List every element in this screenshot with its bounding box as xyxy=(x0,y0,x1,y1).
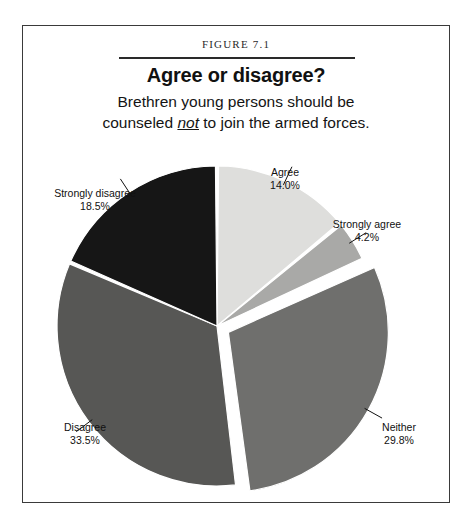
figure-frame: Figure 7.1 Agree or disagree? Brethren y… xyxy=(22,25,450,503)
pie-leader-line xyxy=(365,408,382,418)
pie-chart-svg: Agree14.0%Strongly agree4.2%Neither29.8%… xyxy=(23,134,449,502)
pie-slice-label-name: Strongly disagree xyxy=(54,187,136,199)
pie-slice-label-name: Strongly agree xyxy=(333,218,401,230)
pie-slice-label-value: 18.5% xyxy=(80,200,110,212)
pie-slice-label-name: Agree xyxy=(271,166,299,178)
pie-chart-area: Agree14.0%Strongly agree4.2%Neither29.8%… xyxy=(23,134,449,502)
subtitle-text-before: counseled xyxy=(102,114,177,131)
chart-title: Agree or disagree? xyxy=(23,64,449,87)
chart-subtitle-line-1: Brethren young persons should be xyxy=(23,91,449,112)
pie-slice-label: Disagree33.5% xyxy=(64,421,106,446)
pie-slice-label: Agree14.0% xyxy=(270,166,300,191)
chart-subtitle: Brethren young persons should be counsel… xyxy=(23,91,449,133)
pie-slice-label-name: Neither xyxy=(382,421,416,433)
chart-subtitle-line-2: counseled not to join the armed forces. xyxy=(23,112,449,133)
pie-slice-label: Neither29.8% xyxy=(382,421,416,446)
title-divider-rule xyxy=(119,57,355,59)
pie-slice-label-value: 14.0% xyxy=(270,179,300,191)
pie-slice-group xyxy=(57,166,388,491)
subtitle-text-after: to join the armed forces. xyxy=(199,114,370,131)
subtitle-emphasis-not: not xyxy=(177,114,199,131)
pie-slice-label-name: Disagree xyxy=(64,421,106,433)
pie-slice-label-value: 29.8% xyxy=(384,434,414,446)
figure-number-label: Figure 7.1 xyxy=(23,38,449,50)
pie-slice-label-value: 4.2% xyxy=(355,231,379,243)
pie-slice-label-value: 33.5% xyxy=(70,434,100,446)
